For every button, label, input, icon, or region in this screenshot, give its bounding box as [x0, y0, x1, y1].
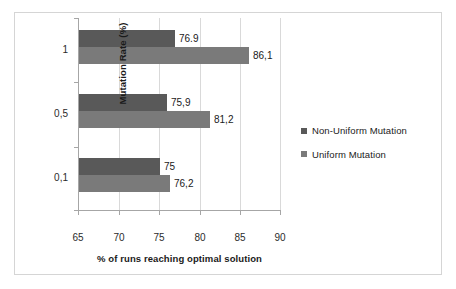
x-axis-line: [78, 210, 281, 211]
bar-label-nonuniform-rate-05: 75,9: [171, 98, 190, 108]
gridline-90: [280, 18, 281, 211]
bar-label-uniform-rate-1: 86,1: [253, 51, 272, 61]
legend-swatch-icon-non-uniform: [301, 128, 307, 134]
y-tick-label-01: 0,1: [28, 173, 68, 183]
x-tick-label-90: 90: [265, 233, 295, 243]
x-tick-65: [78, 211, 79, 215]
y-tick-label-05: 0,5: [28, 109, 68, 119]
legend-item-non-uniform-mutation[interactable]: Non-Uniform Mutation: [301, 126, 407, 136]
bar-label-uniform-rate-05: 81,2: [214, 115, 233, 125]
y-tick-2: [74, 147, 78, 148]
bar-label-uniform-rate-01: 76,2: [174, 179, 193, 189]
x-tick-80: [200, 211, 201, 215]
chart-legend: Non-Uniform Mutation Uniform Mutation: [301, 126, 407, 173]
x-tick-label-80: 80: [185, 233, 215, 243]
y-tick-label-1: 1: [28, 45, 68, 55]
y-axis-title: Mutation Rate (%): [117, 4, 128, 124]
y-tick-top: [74, 18, 78, 19]
x-tick-label-85: 85: [225, 233, 255, 243]
x-tick-label-75: 75: [144, 233, 174, 243]
plot-area: 76.9 86,1 75,9 81,2 75 76,2 65 70 75 80 …: [78, 18, 281, 211]
bar-uniform-rate-01[interactable]: [79, 175, 170, 192]
legend-label-uniform: Uniform Mutation: [312, 150, 386, 160]
x-tick-label-65: 65: [63, 233, 93, 243]
bar-uniform-rate-05[interactable]: [79, 111, 210, 128]
x-axis-title: % of runs reaching optimal solution: [78, 253, 281, 264]
x-tick-85: [240, 211, 241, 215]
legend-item-uniform-mutation[interactable]: Uniform Mutation: [301, 150, 407, 160]
y-tick-1: [74, 82, 78, 83]
x-tick-70: [119, 211, 120, 215]
bar-uniform-rate-1[interactable]: [79, 47, 249, 64]
chart-figure: 76.9 86,1 75,9 81,2 75 76,2 65 70 75 80 …: [0, 0, 456, 289]
bar-nonuniform-rate-01[interactable]: [79, 158, 160, 175]
bar-label-nonuniform-rate-01: 75: [164, 162, 175, 172]
x-tick-label-70: 70: [104, 233, 134, 243]
x-tick-90: [280, 211, 281, 215]
bar-label-nonuniform-rate-1: 76.9: [179, 34, 198, 44]
x-tick-75: [159, 211, 160, 215]
legend-label-non-uniform: Non-Uniform Mutation: [312, 126, 407, 136]
legend-swatch-icon-uniform: [301, 151, 307, 157]
